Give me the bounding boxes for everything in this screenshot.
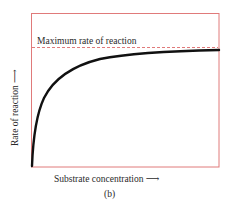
y-axis-label: Rate of reaction ⟶	[10, 69, 20, 146]
rate-curve	[32, 50, 219, 166]
max-rate-annotation: Maximum rate of reaction	[37, 36, 137, 46]
panel-label: (b)	[104, 189, 115, 200]
saturation-chart: Maximum rate of reaction Rate of reactio…	[0, 0, 230, 212]
x-axis-label: Substrate concentration ⟶	[54, 174, 160, 184]
